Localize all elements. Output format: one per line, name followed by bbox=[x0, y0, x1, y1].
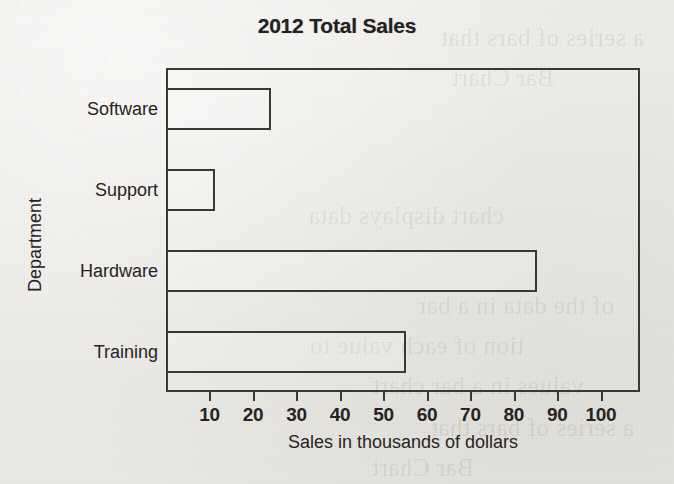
x-tick-label-70: 70 bbox=[460, 404, 481, 426]
x-tick-label-50: 50 bbox=[373, 404, 394, 426]
bar-hardware bbox=[166, 250, 537, 292]
x-tick-label-30: 30 bbox=[286, 404, 307, 426]
x-tick-90 bbox=[557, 392, 559, 401]
bar-training bbox=[166, 331, 406, 373]
x-tick-20 bbox=[253, 392, 255, 401]
x-tick-label-60: 60 bbox=[417, 404, 438, 426]
x-tick-40 bbox=[340, 392, 342, 401]
x-tick-label-40: 40 bbox=[330, 404, 351, 426]
x-tick-10 bbox=[209, 392, 211, 401]
x-tick-label-20: 20 bbox=[243, 404, 264, 426]
y-axis-title: Department bbox=[25, 198, 46, 292]
x-tick-label-10: 10 bbox=[199, 404, 220, 426]
bar-software bbox=[166, 88, 271, 130]
y-axis-label-training: Training bbox=[94, 341, 158, 362]
x-tick-60 bbox=[427, 392, 429, 401]
x-tick-50 bbox=[383, 392, 385, 401]
chart-title: 2012 Total Sales bbox=[0, 14, 674, 38]
x-tick-100 bbox=[601, 392, 603, 401]
y-axis-label-software: Software bbox=[87, 98, 158, 119]
x-tick-80 bbox=[514, 392, 516, 401]
x-tick-label-90: 90 bbox=[547, 404, 568, 426]
bar-chart-figure: 2012 Total Sales 102030405060708090100 S… bbox=[0, 0, 674, 484]
x-tick-label-80: 80 bbox=[504, 404, 525, 426]
x-axis-title: Sales in thousands of dollars bbox=[166, 432, 640, 453]
x-tick-30 bbox=[296, 392, 298, 401]
bar-support bbox=[166, 169, 215, 211]
x-tick-label-100: 100 bbox=[585, 404, 616, 426]
y-axis-label-hardware: Hardware bbox=[80, 260, 158, 281]
x-tick-70 bbox=[470, 392, 472, 401]
y-axis-label-support: Support bbox=[95, 179, 158, 200]
